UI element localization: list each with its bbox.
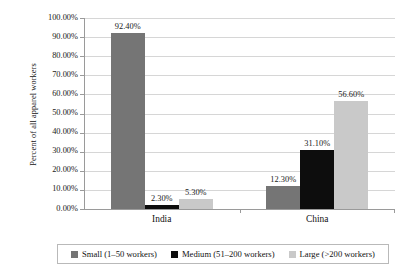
bar bbox=[145, 205, 179, 209]
chart-legend: Small (1–50 workers)Medium (51–200 worke… bbox=[57, 244, 389, 264]
category-label: India bbox=[152, 214, 171, 224]
legend-swatch-icon bbox=[71, 251, 78, 258]
y-tick-label: 70.00% bbox=[18, 70, 78, 79]
legend-item[interactable]: Small (1–50 workers) bbox=[71, 249, 157, 259]
y-tick-mark bbox=[80, 190, 84, 191]
bar-value-label: 92.40% bbox=[115, 22, 141, 31]
y-tick-mark bbox=[80, 171, 84, 172]
bar bbox=[179, 199, 213, 209]
bar bbox=[266, 186, 300, 209]
y-tick-label: 100.00% bbox=[18, 13, 78, 22]
legend-swatch-icon bbox=[289, 251, 296, 258]
legend-label: Medium (51–200 workers) bbox=[182, 249, 275, 259]
category-tick-mark bbox=[394, 209, 395, 213]
y-tick-mark bbox=[80, 209, 84, 210]
gridline bbox=[85, 18, 395, 19]
y-tick-mark bbox=[80, 18, 84, 19]
legend-item[interactable]: Medium (51–200 workers) bbox=[171, 249, 275, 259]
y-tick-label: 10.00% bbox=[18, 184, 78, 193]
y-tick-mark bbox=[80, 37, 84, 38]
y-tick-mark bbox=[80, 75, 84, 76]
legend-item[interactable]: Large (>200 workers) bbox=[289, 249, 375, 259]
bar-value-label: 5.30% bbox=[185, 188, 207, 197]
y-tick-mark bbox=[80, 133, 84, 134]
y-tick-label: 30.00% bbox=[18, 146, 78, 155]
y-tick-label: 80.00% bbox=[18, 51, 78, 60]
bar bbox=[334, 101, 368, 209]
bar-value-label: 12.30% bbox=[270, 175, 296, 184]
bar-value-label: 31.10% bbox=[304, 139, 330, 148]
y-tick-mark bbox=[80, 94, 84, 95]
y-tick-label: 90.00% bbox=[18, 32, 78, 41]
plot-area: 0.00%10.00%20.00%30.00%40.00%50.00%60.00… bbox=[84, 18, 395, 209]
legend-swatch-icon bbox=[171, 251, 178, 258]
legend-label: Large (>200 workers) bbox=[300, 249, 375, 259]
bar bbox=[111, 33, 145, 209]
y-tick-label: 20.00% bbox=[18, 165, 78, 174]
y-tick-mark bbox=[80, 114, 84, 115]
category-label: China bbox=[306, 214, 328, 224]
y-tick-label: 50.00% bbox=[18, 108, 78, 117]
y-tick-label: 60.00% bbox=[18, 89, 78, 98]
legend-label: Small (1–50 workers) bbox=[82, 249, 157, 259]
bar-chart: Percent of all apparel workers 0.00%10.0… bbox=[0, 0, 405, 274]
category-tick-mark bbox=[240, 209, 241, 213]
y-tick-mark bbox=[80, 56, 84, 57]
y-tick-label: 40.00% bbox=[18, 127, 78, 136]
bar-value-label: 56.60% bbox=[338, 90, 364, 99]
y-tick-label: 0.00% bbox=[18, 204, 78, 213]
y-tick-mark bbox=[80, 152, 84, 153]
bar bbox=[300, 150, 334, 209]
bar-value-label: 2.30% bbox=[151, 194, 173, 203]
